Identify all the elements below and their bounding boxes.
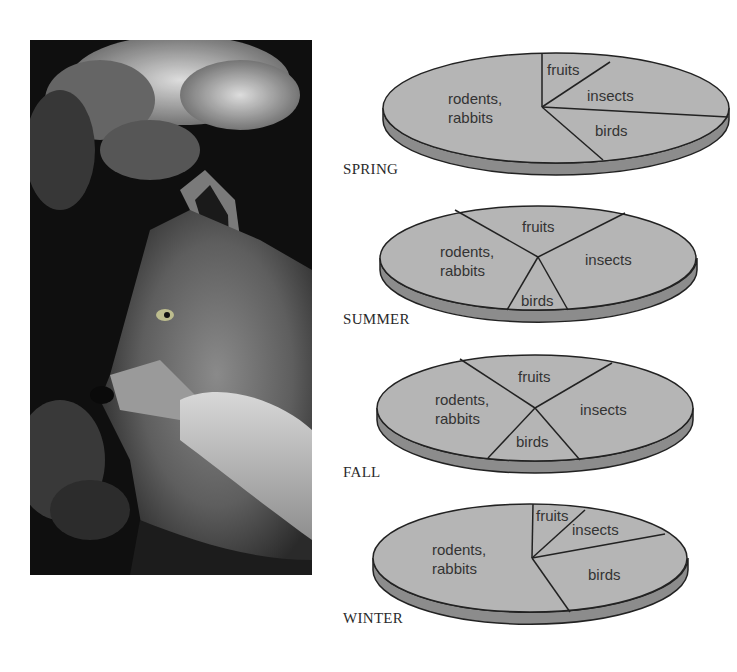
season-label-winter: WINTER bbox=[343, 610, 403, 627]
season-label-spring: SPRING bbox=[343, 161, 398, 178]
slice-label-rabbits: rabbits bbox=[435, 410, 480, 427]
slice-label-fruits: fruits bbox=[522, 218, 555, 235]
pie-chart-fall: rodents, rabbits fruits insects birds bbox=[377, 355, 693, 473]
pie-top bbox=[373, 504, 687, 612]
pie-chart-spring: rodents, rabbits fruits insects birds bbox=[383, 53, 729, 175]
slice-label-rabbits: rabbits bbox=[440, 262, 485, 279]
slice-label-insects: insects bbox=[585, 251, 632, 268]
slice-label-birds: birds bbox=[516, 433, 549, 450]
slice-label-rabbits: rabbits bbox=[432, 560, 477, 577]
slice-label-rabbits: rabbits bbox=[448, 109, 493, 126]
slice-label-fruits: fruits bbox=[536, 507, 569, 524]
seasonal-diet-pie-charts: rodents, rabbits fruits insects birds ro… bbox=[0, 0, 737, 672]
slice-label-birds: birds bbox=[595, 122, 628, 139]
slice-label-rodents: rodents, bbox=[435, 391, 489, 408]
slice-label-fruits: fruits bbox=[518, 368, 551, 385]
slice-label-birds: birds bbox=[588, 566, 621, 583]
pie-chart-summer: rodents, rabbits fruits insects birds bbox=[380, 206, 697, 322]
slice-label-rodents: rodents, bbox=[440, 243, 494, 260]
slice-label-rodents: rodents, bbox=[432, 541, 486, 558]
season-label-summer: SUMMER bbox=[343, 311, 410, 328]
slice-label-insects: insects bbox=[580, 401, 627, 418]
slice-label-insects: insects bbox=[587, 87, 634, 104]
slice-label-fruits: fruits bbox=[547, 61, 580, 78]
slice-label-birds: birds bbox=[521, 292, 554, 309]
slice-label-rodents: rodents, bbox=[448, 90, 502, 107]
slice-label-insects: insects bbox=[572, 521, 619, 538]
season-label-fall: FALL bbox=[343, 464, 381, 481]
pie-chart-winter: rodents, rabbits fruits insects birds bbox=[373, 504, 688, 624]
